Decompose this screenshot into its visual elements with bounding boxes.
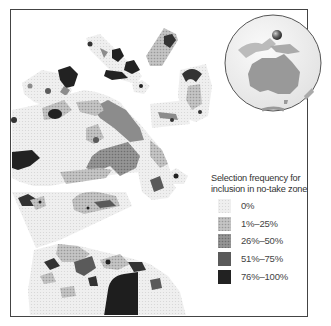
legend-label-1: 1%–25% [241, 218, 278, 229]
legend: Selection frequency for inclusion in no-… [211, 173, 311, 195]
region-south-band [12, 192, 132, 248]
legend-swatch-1 [218, 217, 231, 231]
region-northeast [150, 64, 212, 128]
legend-item-4: 76%–100% [218, 270, 298, 284]
legend-title-line2: inclusion in no-take zone [211, 184, 311, 195]
region-hex-block [146, 28, 178, 66]
legend-swatch-0 [218, 199, 231, 213]
legend-item-1: 1%–25% [218, 217, 298, 231]
region-north [86, 34, 142, 84]
inset-globe [225, 15, 321, 111]
legend-label-0: 0% [241, 200, 254, 211]
legend-title-line1: Selection frequency for [211, 173, 311, 184]
legend-item-0: 0% [218, 199, 298, 213]
legend-item-3: 51%–75% [218, 252, 298, 266]
map-regions [11, 28, 212, 316]
legend-swatch-3 [218, 252, 231, 266]
legend-label-3: 51%–75% [241, 253, 283, 264]
legend-swatch-4 [218, 270, 231, 284]
legend-label-2: 26%–50% [241, 235, 283, 246]
legend-item-2: 26%–50% [218, 234, 298, 248]
legend-label-4: 76%–100% [241, 271, 288, 282]
region-south [28, 244, 186, 316]
legend-swatch-2 [218, 234, 231, 248]
location-marker-icon [272, 30, 282, 40]
